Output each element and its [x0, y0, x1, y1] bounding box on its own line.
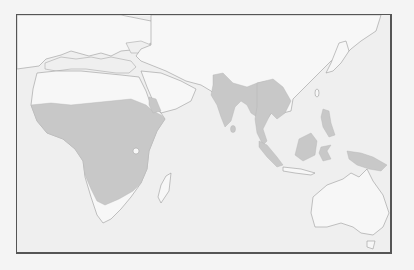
- taiwan: [315, 89, 319, 97]
- range-africa: [31, 99, 165, 205]
- java: [283, 167, 315, 175]
- world-map: [17, 15, 390, 252]
- range-philippines: [321, 109, 335, 137]
- tasmania: [367, 241, 375, 249]
- range-sulawesi: [319, 145, 331, 161]
- australia: [311, 169, 389, 235]
- map-frame: [16, 14, 392, 254]
- range-sumatra: [259, 141, 283, 167]
- mediterranean-sea: [45, 57, 136, 73]
- range-borneo: [295, 133, 317, 161]
- lake-victoria: [133, 148, 139, 154]
- madagascar: [158, 173, 171, 203]
- range-sri-lanka: [231, 126, 236, 133]
- range-new-guinea: [347, 151, 387, 171]
